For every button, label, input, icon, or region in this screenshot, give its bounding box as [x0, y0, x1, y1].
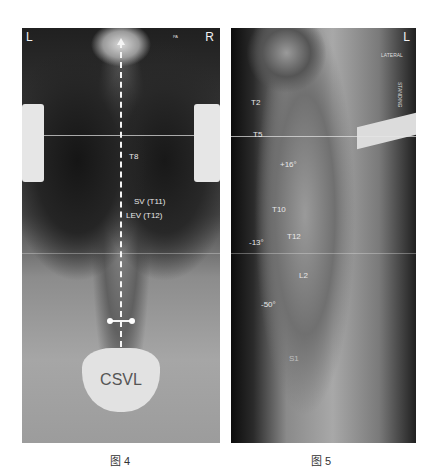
orientation-left-label: L — [403, 30, 410, 44]
xray-lateral-view: L LATERAL STANDING T2 T5 +16° T10 -13° T… — [231, 28, 416, 443]
thoracolumbar-angle: -13° — [249, 238, 264, 247]
vertebra-label-t10: T10 — [272, 205, 286, 214]
arm-support — [357, 113, 416, 150]
lordosis-angle: -50° — [261, 300, 276, 309]
standing-tag: STANDING — [397, 82, 403, 107]
stable-vertebra-label: SV (T11) — [134, 197, 165, 206]
stitch-line — [231, 253, 416, 254]
xray-pa-view: L PA R T8 SV (T11) LEV (T12) CSVL — [22, 28, 220, 443]
view-tag: LATERAL — [381, 52, 403, 58]
csvl-label: CSVL — [100, 371, 142, 389]
vertebra-label-l2: L2 — [299, 271, 308, 280]
projection-tag: PA — [173, 34, 178, 39]
orientation-left-label: L — [26, 30, 33, 44]
orientation-right-label: R — [205, 30, 214, 44]
last-end-vertebra-label: LEV (T12) — [126, 211, 162, 220]
csvl-label-shape: CSVL — [82, 348, 160, 412]
csvl-dashed-line — [120, 42, 122, 347]
figure-5-caption: 图 5 — [311, 452, 331, 468]
vertebra-label-t8: T8 — [129, 152, 138, 161]
side-marker-pad-right — [194, 104, 220, 182]
side-marker-pad-left — [22, 104, 44, 182]
pelvic-midpoint-marker — [110, 320, 132, 322]
figure-4-caption: 图 4 — [110, 452, 130, 468]
vertebra-label-t12: T12 — [287, 232, 301, 241]
vertebra-label-t2: T2 — [251, 98, 260, 107]
kyphosis-angle: +16° — [280, 160, 297, 169]
vertebra-label-t5: T5 — [253, 130, 262, 139]
vertebra-label-s1: S1 — [289, 354, 299, 363]
